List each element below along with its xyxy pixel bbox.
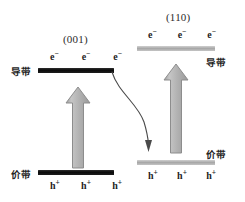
electron-symbol: e− xyxy=(178,29,187,40)
left-excitation-arrow xyxy=(65,86,91,170)
left-valence-band-bar xyxy=(38,170,114,175)
right-conduction-band-bar xyxy=(137,46,215,51)
left-conduction-band-label: 导带 xyxy=(11,64,31,78)
hole-symbol: h+ xyxy=(148,170,158,181)
hole-charge: + xyxy=(87,178,91,187)
right-hole-row: h+ h+ h+ xyxy=(148,170,216,181)
charge-transfer-arrow xyxy=(108,70,160,155)
electron-charge: − xyxy=(212,27,216,36)
electron-charge: − xyxy=(118,49,122,58)
electron-charge: − xyxy=(182,27,186,36)
hole-symbol: h+ xyxy=(177,170,187,181)
right-conduction-band-label: 导带 xyxy=(206,55,226,69)
electron-symbol: e− xyxy=(113,51,122,62)
electron-symbol: e− xyxy=(207,29,216,40)
left-conduction-band-bar xyxy=(38,68,114,73)
left-valence-band-label: 价带 xyxy=(11,167,31,181)
electron-symbol: e− xyxy=(82,51,91,62)
band-structure-diagram: (001) e− e− e− 导带 价带 h+ h+ h+ (110) xyxy=(0,0,245,202)
electron-charge: − xyxy=(152,27,156,36)
hole-charge: + xyxy=(183,168,187,177)
electron-symbol: e− xyxy=(50,51,59,62)
hole-symbol: h+ xyxy=(112,180,122,191)
facet-label-001: (001) xyxy=(63,33,88,45)
electron-charge: − xyxy=(86,49,90,58)
hole-charge: + xyxy=(154,168,158,177)
hole-symbol: h+ xyxy=(50,180,60,191)
hole-charge: + xyxy=(118,178,122,187)
right-electron-row: e− e− e− xyxy=(148,29,216,40)
right-valence-band-bar xyxy=(137,160,215,165)
hole-charge: + xyxy=(56,178,60,187)
left-electron-row: e− e− e− xyxy=(50,51,122,62)
right-excitation-arrow xyxy=(163,63,189,155)
facet-label-110: (110) xyxy=(166,11,190,23)
hole-symbol: h+ xyxy=(206,170,216,181)
electron-charge: − xyxy=(54,49,58,58)
left-hole-row: h+ h+ h+ xyxy=(50,180,122,191)
right-valence-band-label: 价带 xyxy=(206,147,226,161)
hole-charge: + xyxy=(212,168,216,177)
hole-symbol: h+ xyxy=(81,180,91,191)
electron-symbol: e− xyxy=(148,29,157,40)
